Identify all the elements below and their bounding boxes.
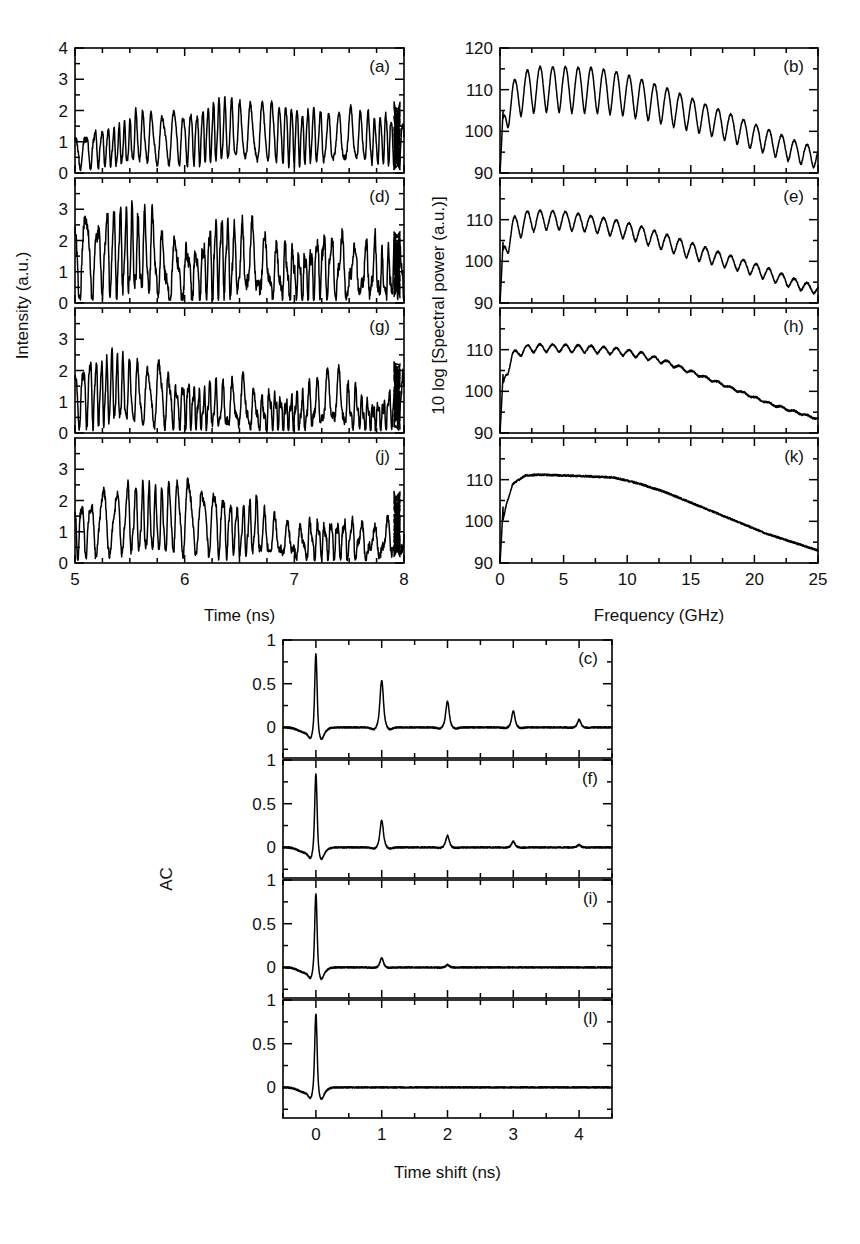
spectrum-trace <box>500 210 818 303</box>
y-tick-label: 2 <box>59 362 68 381</box>
x-tick-label: 3 <box>509 1125 518 1144</box>
autocorrelation-trace <box>283 654 612 739</box>
y-tick-label: 0 <box>267 958 276 977</box>
y-tick-label: 1 <box>59 523 68 542</box>
x-tick-label: 7 <box>290 570 299 589</box>
panel-tag-b: (b) <box>783 57 804 76</box>
y-tick-label: 90 <box>474 424 493 443</box>
intensity-trace <box>75 97 404 171</box>
y-tick-label: 2 <box>59 492 68 511</box>
y-tick-label: 1 <box>267 751 276 770</box>
x-tick-label: 8 <box>399 570 408 589</box>
spectrum-plot-svg: 90100110120(b)90100110(e)90100110(h)0510… <box>420 0 860 640</box>
panel-tag-i: (i) <box>583 889 598 908</box>
y-tick-label: 100 <box>465 512 493 531</box>
x-tick-label: 5 <box>70 570 79 589</box>
intensity-trace <box>75 478 404 561</box>
x-tick-label: 1 <box>377 1125 386 1144</box>
y-tick-label: 90 <box>474 294 493 313</box>
y-axis-label: 10 log [Spectral power (a.u.)] <box>429 196 448 414</box>
panel-tag-c: (c) <box>578 649 598 668</box>
y-tick-label: 0 <box>59 424 68 443</box>
panel-tag-a: (a) <box>369 57 390 76</box>
y-tick-label: 0.5 <box>252 795 276 814</box>
y-tick-label: 0 <box>267 1078 276 1097</box>
y-tick-label: 1 <box>59 393 68 412</box>
panel-tag-j: (j) <box>375 447 390 466</box>
y-tick-label: 90 <box>474 554 493 573</box>
intensity-trace <box>75 201 404 301</box>
y-tick-label: 120 <box>465 39 493 58</box>
autocorrelation-plot-svg: 00.51(c)00.51(f)00.51(i)0123400.51(l)ACT… <box>130 620 690 1240</box>
y-tick-label: 0 <box>59 294 68 313</box>
x-tick-label: 10 <box>618 570 637 589</box>
y-tick-label: 0.5 <box>252 915 276 934</box>
x-tick-label: 25 <box>809 570 828 589</box>
y-tick-label: 0.5 <box>252 1035 276 1054</box>
intensity-time-series-figure: 01234(a)0123(d)0123(g)56780123(j)Intensi… <box>0 0 430 640</box>
y-tick-label: 3 <box>59 70 68 89</box>
y-axis-label: AC <box>157 867 176 891</box>
y-tick-label: 2 <box>59 232 68 251</box>
autocorrelation-trace <box>283 1014 612 1099</box>
spectrum-trace <box>500 344 818 433</box>
x-tick-label: 4 <box>574 1125 583 1144</box>
y-tick-label: 0 <box>59 554 68 573</box>
spectral-power-figure: 90100110120(b)90100110(e)90100110(h)0510… <box>420 0 860 640</box>
panel-tag-k: (k) <box>784 447 804 466</box>
panel-tag-l: (l) <box>583 1009 598 1028</box>
intensity-plot-svg: 01234(a)0123(d)0123(g)56780123(j)Intensi… <box>0 0 430 640</box>
y-axis-label: Intensity (a.u.) <box>13 252 32 360</box>
x-tick-label: 20 <box>745 570 764 589</box>
y-tick-label: 2 <box>59 102 68 121</box>
intensity-trace <box>75 348 404 431</box>
intensity-trace-edge-burst <box>394 102 400 170</box>
spectrum-trace <box>500 474 818 563</box>
y-tick-label: 110 <box>466 341 493 360</box>
y-tick-label: 1 <box>59 263 68 282</box>
y-tick-label: 3 <box>59 460 68 479</box>
y-tick-label: 4 <box>59 39 68 58</box>
y-tick-label: 100 <box>465 122 493 141</box>
y-tick-label: 1 <box>267 871 276 890</box>
y-tick-label: 90 <box>474 164 493 183</box>
y-tick-label: 1 <box>267 631 276 650</box>
intensity-trace-edge-burst <box>394 232 400 298</box>
x-tick-label: 0 <box>311 1125 320 1144</box>
intensity-trace-edge-burst <box>394 362 400 429</box>
y-tick-label: 3 <box>59 330 68 349</box>
panel-tag-e: (e) <box>783 187 804 206</box>
x-tick-label: 0 <box>495 570 504 589</box>
x-axis-label: Time shift (ns) <box>394 1163 501 1182</box>
spectrum-trace <box>500 66 818 173</box>
x-tick-label: 2 <box>443 1125 452 1144</box>
y-tick-label: 110 <box>466 471 493 490</box>
y-tick-label: 110 <box>466 81 493 100</box>
y-tick-label: 0 <box>267 718 276 737</box>
y-tick-label: 1 <box>267 991 276 1010</box>
autocorrelation-figure: 00.51(c)00.51(f)00.51(i)0123400.51(l)ACT… <box>130 620 690 1240</box>
x-tick-label: 5 <box>559 570 568 589</box>
autocorrelation-trace <box>283 774 612 859</box>
y-tick-label: 0.5 <box>252 675 276 694</box>
y-tick-label: 110 <box>466 211 493 230</box>
y-tick-label: 3 <box>59 200 68 219</box>
panel-tag-f: (f) <box>582 769 598 788</box>
panel-tag-d: (d) <box>369 187 390 206</box>
y-tick-label: 0 <box>267 838 276 857</box>
panel-tag-h: (h) <box>783 317 804 336</box>
autocorrelation-trace <box>283 894 612 980</box>
x-tick-label: 6 <box>180 570 189 589</box>
y-tick-label: 1 <box>59 133 68 152</box>
y-tick-label: 100 <box>465 252 493 271</box>
x-tick-label: 15 <box>681 570 700 589</box>
y-tick-label: 0 <box>59 164 68 183</box>
y-tick-label: 100 <box>465 382 493 401</box>
panel-tag-g: (g) <box>369 317 390 336</box>
